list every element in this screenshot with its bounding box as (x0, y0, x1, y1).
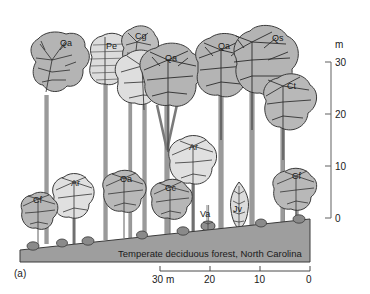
scale-label-10: 10 (254, 274, 266, 285)
tree-label-qa-3: Qa (218, 41, 230, 51)
panel-label: (a) (14, 268, 26, 279)
ground-shrub (293, 215, 305, 223)
tree-label-ar-2: Ar (189, 142, 198, 152)
tree-label-cg-1: Cg (135, 31, 147, 41)
scale-label-0: 0 (306, 274, 312, 285)
tree-label-cf-1: Cf (33, 195, 42, 205)
ground-shrub (256, 219, 267, 227)
tree-label-qa-2: Qa (165, 53, 177, 63)
tree-label-va-1: Va (200, 209, 210, 219)
axis-tick-label-20: 20 (335, 109, 347, 120)
axis-tick-label-0: 0 (335, 213, 341, 224)
tree-label-qa-1: Qa (60, 38, 72, 48)
ground-shrub (57, 239, 68, 247)
tree-label-qs-1: Qs (272, 33, 284, 43)
forest-profile-diagram: Qa Pe Cg Qa Qa (0, 0, 370, 294)
tree-label-cf-2: Cf (292, 171, 301, 181)
axis-tick-label-30: 30 (335, 57, 347, 68)
scale-label-20: 20 (204, 274, 216, 285)
axis-unit-label: m (335, 39, 343, 50)
tree-label-pe-1: Pe (106, 41, 117, 51)
tree-label-oa-1: Oa (120, 174, 132, 184)
tree-label-ct-1: Ct (287, 81, 296, 91)
ground-shrub (177, 227, 189, 235)
tree-label-cc-1: Cc (165, 183, 176, 193)
ground-shrub (27, 242, 39, 250)
tree-label-ar-1: Ar (71, 178, 80, 188)
ground-shrub (137, 231, 148, 239)
scale-label-30: 30 m (152, 274, 174, 285)
tree-label-jv-1: Jv (233, 204, 243, 214)
ground-caption: Temperate deciduous forest, North Caroli… (118, 248, 302, 259)
ground-shrub (82, 237, 94, 245)
axis-tick-label-10: 10 (335, 161, 347, 172)
